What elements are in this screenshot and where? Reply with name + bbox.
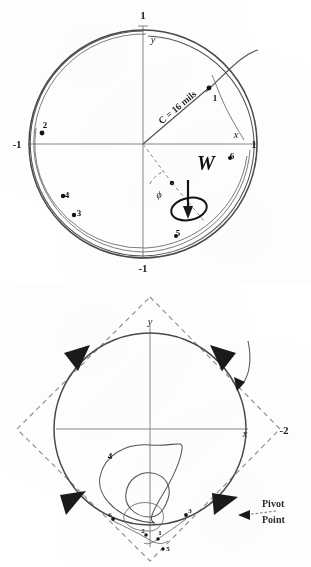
pivot-point-label-line1: Pivot [262, 498, 285, 509]
point-label-5: 5 [176, 228, 181, 238]
rotation-arrow-bottom-right [212, 493, 238, 515]
point-marker-3 [72, 213, 76, 217]
y-tick-label-bottom: -1 [138, 262, 147, 274]
point-label-6: 6 [230, 151, 235, 161]
point-marker-1 [207, 86, 212, 91]
trajectory-arc-middle [34, 34, 250, 252]
radius-label: C = 16 mils [157, 89, 199, 126]
trajectory-crossing-curve [212, 75, 244, 140]
x-tick-label-right: -2 [279, 424, 289, 436]
point-marker-2 [144, 533, 147, 536]
pivot-leader-arrowhead [238, 510, 250, 520]
x-tick-label-right: 1 [251, 138, 257, 150]
point-marker-5 [161, 547, 164, 550]
figure-top-canvas: 1 -1 -1 1 y x C = 16 mils W ϕ 1 2 3 4 5 … [0, 0, 311, 283]
coning-angle-dashed-line [143, 144, 172, 183]
y-axis-label: y [150, 34, 156, 45]
trajectory-exit-curve [206, 50, 258, 92]
point-label-2: 2 [141, 527, 145, 535]
direction-arc [240, 341, 250, 387]
point-label-1: 1 [158, 529, 162, 537]
point-label-2: 2 [43, 120, 48, 130]
figure-bottom-pivot-point-plot: x y -2 4 6 3 2 1 5 Pivot Point [0, 283, 311, 567]
y-axis-label: y [147, 316, 153, 327]
point-label-3: 3 [188, 507, 192, 515]
trajectory-arc-inner [35, 128, 247, 248]
point-marker-2 [40, 131, 45, 136]
direction-arc-arrowhead [234, 377, 245, 391]
spin-vector-arrow-head [183, 206, 193, 219]
radius-line [143, 86, 211, 144]
y-tick-label-top: 1 [140, 9, 146, 21]
trajectory-arc-outer [30, 31, 254, 256]
point-label-4: 4 [65, 190, 70, 200]
spin-vector-label: W [197, 152, 216, 174]
point-label-6: 6 [108, 511, 112, 519]
point-marker-1 [156, 537, 159, 540]
pivot-point-label-line2: Point [262, 514, 285, 525]
point-label-5: 5 [166, 545, 170, 553]
point-label-4: 4 [108, 451, 113, 461]
figure-bottom-canvas: x y -2 4 6 3 2 1 5 Pivot Point [0, 283, 311, 567]
coning-angle-label: ϕ [156, 189, 161, 200]
x-axis-label: x [242, 428, 248, 439]
x-tick-label-left: -1 [12, 138, 21, 150]
point-label-3: 3 [77, 208, 82, 218]
rotation-arrow-bottom-left [60, 491, 86, 515]
point-label-1: 1 [213, 93, 218, 103]
figure-top-epicyclic-yaw-plot: 1 -1 -1 1 y x C = 16 mils W ϕ 1 2 3 4 5 … [0, 0, 311, 283]
angle-arc [150, 172, 163, 184]
x-axis-label: x [233, 129, 239, 140]
